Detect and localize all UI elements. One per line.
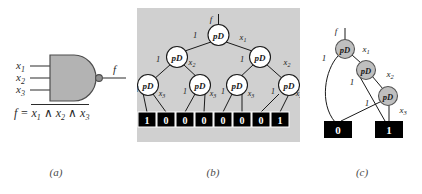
edge-label-root-high: x1 bbox=[239, 32, 247, 43]
edge-label-n10-high: x2 bbox=[188, 57, 196, 68]
edge-root-low bbox=[182, 42, 211, 52]
edge-label-n22-high: x3 bbox=[247, 89, 255, 99]
tree-node-l2-a-label: pD bbox=[142, 81, 155, 91]
gate-input-label-3: x3 bbox=[16, 83, 25, 98]
caption-a: (a) bbox=[36, 166, 76, 178]
terminal-value: 0 bbox=[164, 115, 169, 126]
bdd-edge-n1-high bbox=[352, 55, 361, 63]
bdd-terminal-1-value: 1 bbox=[386, 124, 392, 136]
bdd-terminal-0-value: 0 bbox=[335, 124, 341, 136]
bdd-edge-n3-low bbox=[341, 101, 382, 121]
formula-lhs: f = bbox=[14, 106, 28, 120]
reduced-bdd-drawing: pD pD pD f 1 x1 1 x2 1 x3 0 1 bbox=[305, 8, 422, 148]
bdd-edge-label-n2-low: 1 bbox=[350, 77, 355, 87]
bdd-edge-label-n3-high: x3 bbox=[398, 105, 407, 116]
edge-n23-high bbox=[280, 94, 289, 112]
panel-b-decision-tree: pD pD pD pD pD pD pD f 1 x1 1 x2 1 x2 bbox=[137, 8, 300, 142]
caption-b: (b) bbox=[193, 166, 233, 178]
bdd-edge-label-n1-high: x1 bbox=[361, 44, 369, 55]
terminal-value: 0 bbox=[202, 115, 207, 126]
bdd-root-input-label: f bbox=[335, 26, 339, 36]
bdd-node-x2-label: pD bbox=[360, 66, 371, 76]
edge-n23-low bbox=[261, 94, 279, 112]
tree-node-root-label: pD bbox=[212, 31, 225, 41]
boolean-formula: f = x1 ∧ x2 ∧ x3 bbox=[14, 104, 89, 122]
edge-label-n20-low: 1 bbox=[137, 85, 139, 94]
bdd-edge-n1-low bbox=[325, 56, 338, 122]
formula-overbar-expression: x1 ∧ x2 ∧ x3 bbox=[31, 104, 89, 122]
caption-c: (c) bbox=[342, 166, 382, 178]
edge-label-n10-low: 1 bbox=[156, 54, 160, 64]
terminal-value: 0 bbox=[240, 115, 245, 126]
terminal-value: 0 bbox=[183, 115, 188, 126]
panel-a-nand-gate: x1 x2 x3 f f = x1 ∧ x2 ∧ x3 bbox=[0, 0, 133, 155]
terminal-row: 1 0 0 0 0 0 0 1 bbox=[138, 112, 289, 127]
tree-node-l2-d-label: pD bbox=[283, 81, 296, 91]
nand-gate-body bbox=[50, 55, 96, 101]
edge-label-n11-high: x2 bbox=[283, 57, 291, 68]
edge-label-n23-high: x3 bbox=[295, 89, 300, 99]
edge-n21-low bbox=[185, 94, 195, 112]
edge-label-n21-high: x3 bbox=[209, 89, 217, 99]
edge-label-n20-high: x3 bbox=[158, 89, 166, 99]
tree-node-l1-left-label: pD bbox=[171, 53, 184, 63]
gate-output-label: f bbox=[113, 63, 116, 75]
decision-tree-drawing: pD pD pD pD pD pD pD f 1 x1 1 x2 1 x2 bbox=[137, 8, 300, 142]
inversion-bubble-icon bbox=[96, 75, 103, 82]
edge-label-n11-low: 1 bbox=[240, 54, 244, 64]
terminal-value: 0 bbox=[259, 115, 264, 126]
terminal-value: 1 bbox=[145, 115, 150, 126]
tree-root-input-label: f bbox=[210, 14, 214, 24]
terminal-value: 1 bbox=[278, 115, 283, 126]
edge-label-n21-low: 1 bbox=[183, 87, 187, 96]
bdd-edge-label-n3-low: 1 bbox=[365, 98, 370, 108]
tree-node-l1-right-label: pD bbox=[254, 53, 267, 63]
edge-label-root-low: 1 bbox=[193, 30, 197, 40]
edge-n21-high bbox=[204, 94, 205, 112]
bdd-edge-label-n1-low: 1 bbox=[322, 53, 327, 63]
bdd-edge-n2-high bbox=[372, 76, 383, 89]
edge-n22-low bbox=[223, 94, 232, 112]
terminal-value: 0 bbox=[221, 115, 226, 126]
panel-c-reduced-bdd: pD pD pD f 1 x1 1 x2 1 x3 0 1 bbox=[305, 8, 422, 148]
bdd-edge-label-n2-high: x2 bbox=[385, 69, 394, 80]
tree-node-l2-c-label: pD bbox=[231, 81, 244, 91]
edge-label-n22-low: 1 bbox=[221, 87, 225, 96]
edge-root-high bbox=[226, 42, 255, 52]
bdd-node-x3-label: pD bbox=[382, 92, 393, 102]
edge-label-n23-low: 1 bbox=[271, 87, 275, 96]
bdd-node-x1-label: pD bbox=[339, 45, 350, 55]
figure-root: x1 x2 x3 f f = x1 ∧ x2 ∧ x3 bbox=[0, 0, 422, 194]
tree-node-l2-b-label: pD bbox=[194, 81, 207, 91]
